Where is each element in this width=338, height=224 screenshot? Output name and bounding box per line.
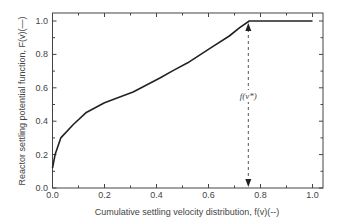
x-tick-label: 0.6 bbox=[202, 190, 215, 200]
f-v-star-annotation: f(v*) bbox=[237, 23, 259, 187]
y-tick-label: 0.0 bbox=[35, 183, 48, 193]
x-tick-label: 1.0 bbox=[306, 190, 319, 200]
plot-frame bbox=[53, 13, 324, 188]
x-axis-ticks: 0.00.20.40.60.81.0 bbox=[46, 13, 319, 200]
y-tick-label: 0.2 bbox=[35, 150, 48, 160]
y-tick-label: 1.0 bbox=[35, 16, 48, 26]
series-line-F-v bbox=[53, 21, 313, 168]
x-tick-label: 0.0 bbox=[46, 190, 59, 200]
arrow-down-icon bbox=[245, 179, 251, 187]
x-tick-label: 0.2 bbox=[98, 190, 111, 200]
y-tick-label: 0.4 bbox=[35, 116, 48, 126]
x-tick-label: 0.8 bbox=[254, 190, 267, 200]
y-tick-label: 0.6 bbox=[35, 83, 48, 93]
y-axis-ticks: 0.00.20.40.60.81.0 bbox=[35, 16, 323, 193]
y-tick-label: 0.8 bbox=[35, 49, 48, 59]
chart: 0.00.20.40.60.81.0 0.00.20.40.60.81.0 f(… bbox=[0, 0, 338, 224]
y-axis-label: Reactor settling potential function, F(v… bbox=[17, 16, 27, 185]
arrow-up-icon bbox=[245, 23, 251, 31]
x-axis-label: Cumulative settling velocity distributio… bbox=[95, 207, 280, 217]
x-tick-label: 0.4 bbox=[150, 190, 163, 200]
annotation-label: f(v*) bbox=[240, 91, 257, 101]
